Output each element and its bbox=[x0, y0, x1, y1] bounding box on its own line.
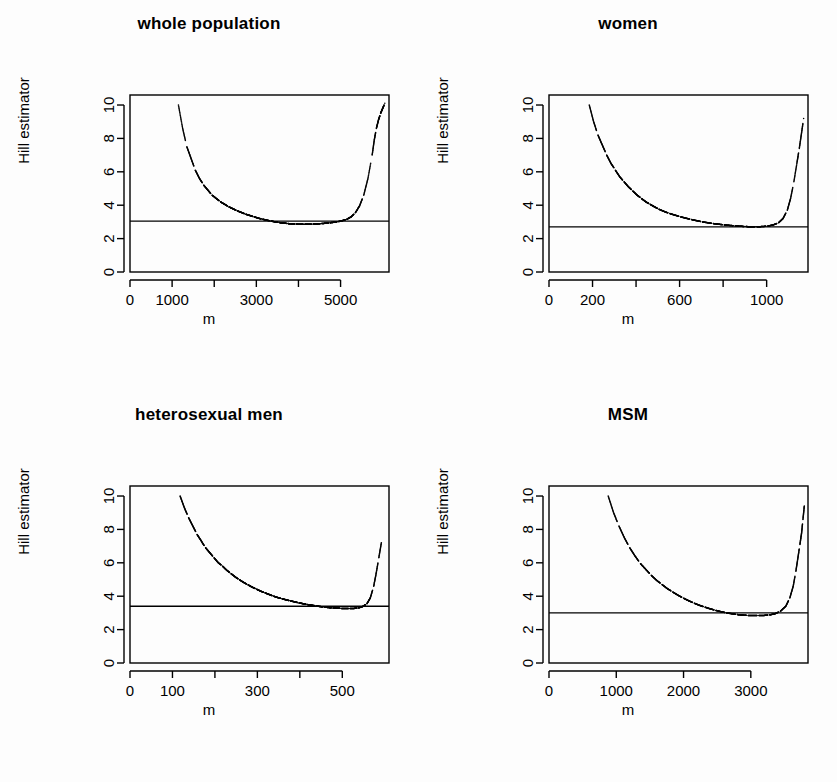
x-tick-label: 0 bbox=[545, 291, 553, 308]
data-point bbox=[365, 604, 367, 606]
x-tick-label: 500 bbox=[330, 682, 355, 699]
data-point bbox=[802, 123, 804, 125]
x-axis-label-whole-population: m bbox=[0, 310, 418, 327]
data-point bbox=[370, 162, 372, 164]
data-series-group bbox=[589, 104, 805, 227]
data-point bbox=[288, 600, 290, 602]
x-tick-label: 300 bbox=[245, 682, 270, 699]
data-point bbox=[263, 592, 265, 594]
data-point bbox=[372, 589, 374, 591]
data-point bbox=[294, 223, 296, 225]
plot-area-heterosexual-men: 02468100100300500 bbox=[0, 391, 418, 721]
x-tick-label: 3000 bbox=[734, 682, 767, 699]
plot-box bbox=[549, 486, 808, 663]
data-point bbox=[657, 208, 659, 210]
data-point bbox=[776, 223, 778, 225]
data-point bbox=[297, 602, 299, 604]
data-point bbox=[345, 219, 347, 221]
y-tick-label: 0 bbox=[100, 659, 117, 667]
data-point bbox=[353, 213, 355, 215]
x-tick-label: 5000 bbox=[324, 291, 357, 308]
data-point bbox=[328, 222, 330, 224]
data-point bbox=[210, 193, 212, 195]
plot-area-msm: 02468100100020003000 bbox=[419, 391, 837, 721]
x-tick-label: 2000 bbox=[667, 682, 700, 699]
y-tick-label: 2 bbox=[519, 625, 536, 633]
y-tick-label: 2 bbox=[100, 625, 117, 633]
y-tick-label: 0 bbox=[519, 659, 536, 667]
x-tick-label: 200 bbox=[580, 291, 605, 308]
y-tick-label: 8 bbox=[519, 525, 536, 533]
data-point bbox=[802, 523, 804, 525]
data-point bbox=[756, 615, 758, 617]
data-point bbox=[667, 212, 669, 214]
data-point bbox=[339, 608, 341, 610]
y-tick-label: 8 bbox=[100, 134, 117, 142]
data-point bbox=[356, 607, 358, 609]
data-point bbox=[260, 218, 262, 220]
data-point bbox=[722, 224, 724, 226]
data-point bbox=[649, 573, 651, 575]
data-point bbox=[322, 606, 324, 608]
data-point bbox=[377, 562, 379, 564]
data-point bbox=[767, 614, 769, 616]
data-point bbox=[235, 209, 237, 211]
y-tick-label: 2 bbox=[100, 234, 117, 242]
data-point bbox=[212, 555, 214, 557]
data-point bbox=[689, 218, 691, 220]
x-tick-label: 0 bbox=[126, 682, 134, 699]
y-tick-label: 4 bbox=[100, 592, 117, 600]
y-tick-label: 0 bbox=[100, 268, 117, 276]
y-tick-label: 2 bbox=[519, 234, 536, 242]
data-point bbox=[269, 220, 271, 222]
data-point bbox=[681, 596, 683, 598]
data-point bbox=[713, 609, 715, 611]
data-series-group bbox=[179, 495, 382, 609]
panel-whole-population: whole population Hill estimator 02468100… bbox=[0, 0, 418, 391]
data-point bbox=[362, 198, 364, 200]
y-tick-label: 0 bbox=[519, 268, 536, 276]
data-point bbox=[746, 615, 748, 617]
data-point bbox=[319, 223, 321, 225]
data-point bbox=[700, 221, 702, 223]
data-point bbox=[186, 514, 188, 516]
data-point bbox=[227, 205, 229, 207]
data-point bbox=[384, 103, 386, 105]
data-series-group bbox=[607, 495, 805, 616]
data-point bbox=[616, 521, 618, 523]
data-point bbox=[670, 590, 672, 592]
x-tick-label: 0 bbox=[126, 291, 134, 308]
data-point bbox=[277, 222, 279, 224]
y-tick-label: 6 bbox=[519, 168, 536, 176]
data-point bbox=[280, 598, 282, 600]
data-point bbox=[711, 223, 713, 225]
data-point bbox=[193, 165, 195, 167]
x-tick-label: 600 bbox=[667, 291, 692, 308]
data-point bbox=[271, 595, 273, 597]
data-point bbox=[254, 588, 256, 590]
data-point bbox=[702, 606, 704, 608]
data-point bbox=[765, 226, 767, 228]
data-point bbox=[220, 564, 222, 566]
x-tick-label: 1000 bbox=[600, 682, 633, 699]
data-point bbox=[314, 605, 316, 607]
plot-box bbox=[549, 95, 808, 272]
plot-area-whole-population: 02468100100030005000 bbox=[0, 0, 418, 330]
data-point bbox=[724, 612, 726, 614]
plot-box bbox=[130, 95, 389, 272]
data-point bbox=[678, 216, 680, 218]
data-point bbox=[627, 544, 629, 546]
y-tick-label: 4 bbox=[519, 201, 536, 209]
data-point bbox=[331, 607, 333, 609]
data-point bbox=[237, 578, 239, 580]
x-axis-label-heterosexual-men: m bbox=[0, 701, 418, 718]
y-tick-label: 10 bbox=[100, 97, 117, 114]
y-tick-label: 6 bbox=[100, 168, 117, 176]
data-point bbox=[735, 614, 737, 616]
data-point bbox=[798, 152, 800, 154]
data-point bbox=[639, 197, 641, 199]
data-point bbox=[286, 223, 288, 225]
data-point bbox=[185, 140, 187, 142]
data-point bbox=[348, 608, 350, 610]
data-point bbox=[252, 216, 254, 218]
